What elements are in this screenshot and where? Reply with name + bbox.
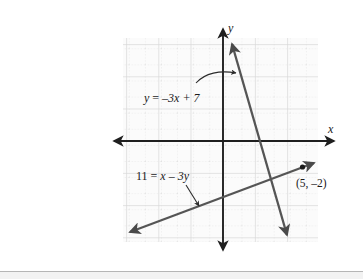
graph-grid	[123, 38, 318, 242]
steep-eq-lhs: y	[144, 91, 149, 105]
page-bottom-divider	[0, 271, 363, 272]
shallow-eq-rhs: x – 3y	[160, 169, 189, 183]
coordinate-graph-figure	[0, 0, 363, 279]
equation-label-steep-line: y = –3x + 7	[144, 92, 200, 104]
page-bottom-shade	[0, 272, 363, 279]
equation-label-shallow-line: 11 = x – 3y	[136, 170, 189, 182]
shallow-eq-lhs: 11	[136, 169, 148, 183]
y-axis-label: y	[228, 22, 233, 34]
x-axis-label: x	[328, 123, 333, 135]
solution-point-marker	[300, 164, 305, 169]
steep-eq-operator: =	[152, 91, 159, 105]
solution-point-label: (5, –2)	[296, 178, 327, 190]
steep-eq-rhs: –3x + 7	[162, 91, 199, 105]
shallow-eq-operator: =	[151, 169, 158, 183]
